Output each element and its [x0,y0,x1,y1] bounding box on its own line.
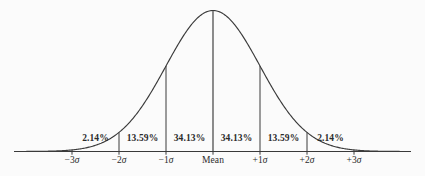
tick-mean-label: Mean [202,155,224,165]
tick-minus2-label: −2σ [111,155,126,165]
tick-minus3-label: −3σ [64,155,79,165]
sigma-symbol: σ [310,155,315,165]
band-mean-plus1-percent-label: 34.13% [221,133,252,143]
sigma-symbol: σ [169,155,174,165]
sigma-symbol: σ [263,155,268,165]
sigma-symbol: σ [357,155,362,165]
sigma-symbol: σ [75,155,80,165]
band-plus2-plus3-percent-label: 2.14% [317,133,344,143]
band-plus1-plus2-percent-label: 13.59% [268,133,299,143]
tick-plus3-label: +3σ [346,155,361,165]
band-minus3-minus2-percent-label: 2.14% [82,133,109,143]
tick-plus1-label: +1σ [252,155,267,165]
bell-curve-graphic [0,0,425,176]
sigma-divider-lines [72,11,354,152]
band-minus2-minus1-percent-label: 13.59% [127,133,158,143]
normal-distribution-chart: 2.14%13.59%34.13%34.13%13.59%2.14% −3σ−2… [0,0,425,176]
band-minus1-mean-percent-label: 34.13% [174,133,205,143]
tick-minus1-label: −1σ [158,155,173,165]
sigma-symbol: σ [122,155,127,165]
tick-plus2-label: +2σ [299,155,314,165]
